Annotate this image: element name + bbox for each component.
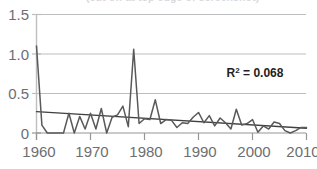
x-tick-label-1980: 1980 <box>129 143 162 160</box>
chart-plot-area: 1.5 1.0 0.5 0 1960 1970 1980 1990 2000 2… <box>0 0 317 169</box>
x-tick-label-1960: 1960 <box>22 143 55 160</box>
x-tick-label-2000: 2000 <box>237 143 270 160</box>
data-series-line <box>37 46 307 133</box>
y-tick-label-0-5: 0.5 <box>8 85 29 102</box>
r-squared-annotation: R2 = 0.068 <box>227 66 284 80</box>
y-tick-label-0: 0 <box>21 125 29 142</box>
r-squared-prefix: R <box>227 66 236 80</box>
x-tick-label-1970: 1970 <box>75 143 108 160</box>
y-tick-label-1-0: 1.0 <box>8 46 29 63</box>
x-tick-label-1990: 1990 <box>183 143 216 160</box>
y-axis-labels: 1.5 1.0 0.5 0 <box>8 6 29 142</box>
x-axis-ticks <box>37 133 307 140</box>
x-tick-label-2010: 2010 <box>286 143 317 160</box>
r-squared-value: = 0.068 <box>240 66 284 80</box>
x-axis-labels: 1960 1970 1980 1990 2000 2010 <box>22 143 317 160</box>
chart-container: (cut off at top edge of screenshot) <box>0 0 317 169</box>
y-tick-label-1-5: 1.5 <box>8 6 29 23</box>
